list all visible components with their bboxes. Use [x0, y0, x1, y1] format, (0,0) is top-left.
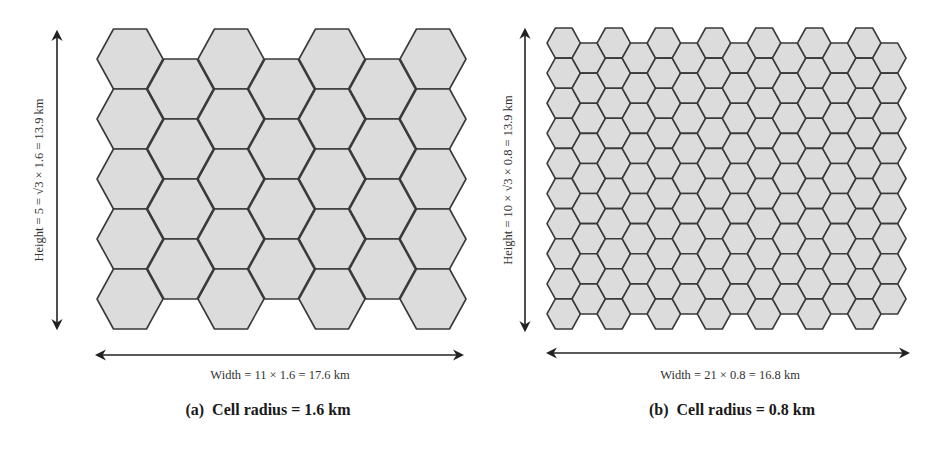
hex-cell: [873, 254, 906, 284]
hex-cell: [873, 163, 906, 193]
height-label-a: Height = 5 = √3 × 1.6 = 13.9 km: [32, 98, 46, 261]
hex-cell: [873, 73, 906, 103]
hex-cell: [873, 194, 906, 224]
width-label-a: Width = 11 × 1.6 = 17.6 km: [210, 368, 350, 382]
height-label-b: Height = 10 × √3 × 0.8 = 13.9 km: [501, 95, 515, 265]
hex-cell: [873, 284, 906, 314]
panel-a: Height = 5 = √3 × 1.6 = 13.9 km Width = …: [32, 29, 466, 419]
caption-b: (b) Cell radius = 0.8 km: [649, 401, 816, 419]
caption-a: (a) Cell radius = 1.6 km: [185, 401, 351, 419]
hex-grid-b: [547, 28, 906, 329]
panel-b: Height = 10 × √3 × 0.8 = 13.9 km Width =…: [501, 28, 908, 419]
width-label-b: Width = 21 × 0.8 = 16.8 km: [660, 368, 800, 382]
hex-grid-a: [97, 29, 466, 329]
hex-cell: [873, 133, 906, 163]
hex-cell: [873, 43, 906, 73]
cell-size-comparison-figure: Height = 5 = √3 × 1.6 = 13.9 km Width = …: [0, 0, 945, 451]
hex-cell: [873, 103, 906, 133]
hex-cell: [873, 224, 906, 254]
